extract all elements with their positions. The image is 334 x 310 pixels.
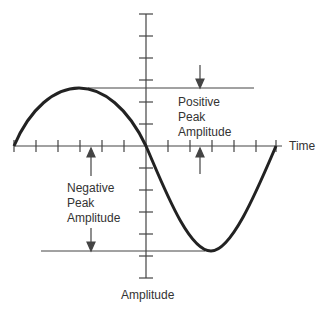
label-line: Positive xyxy=(178,95,231,110)
sine-curve xyxy=(14,88,276,251)
label-line: Amplitude xyxy=(67,211,120,226)
label-line: Negative xyxy=(67,181,120,196)
sine-wave-diagram xyxy=(0,0,334,310)
positive-peak-label: Positive Peak Amplitude xyxy=(178,95,231,140)
label-line: Peak xyxy=(178,110,231,125)
amplitude-axis-label: Amplitude xyxy=(121,288,174,303)
negative-peak-label: Negative Peak Amplitude xyxy=(67,181,120,226)
label-line: Peak xyxy=(67,196,120,211)
label-line: Amplitude xyxy=(178,125,231,140)
time-axis-label: Time xyxy=(289,139,315,154)
